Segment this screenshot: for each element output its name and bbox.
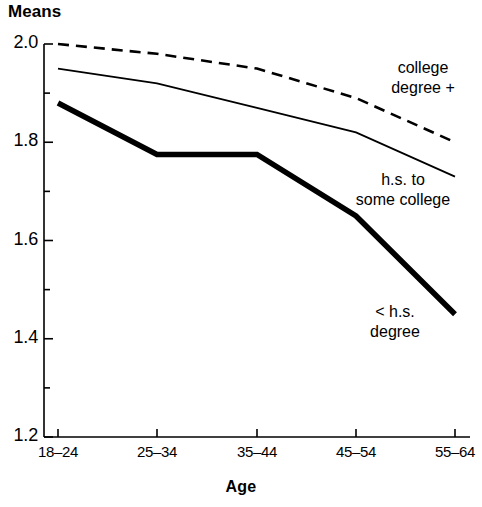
x-tick-label: 45–54 bbox=[311, 443, 401, 460]
chart-figure: Means 2.01.81.61.41.2 18–2425–3435–4445–… bbox=[0, 0, 482, 507]
y-tick-label: 2.0 bbox=[0, 32, 38, 53]
x-tick-label: 35–44 bbox=[212, 443, 302, 460]
x-tick-label: 25–34 bbox=[112, 443, 202, 460]
axes bbox=[44, 44, 470, 437]
series-label-college-degree: college degree + bbox=[368, 58, 478, 98]
y-tick-label: 1.6 bbox=[0, 229, 38, 250]
y-tick-label: 1.8 bbox=[0, 130, 38, 151]
series-label-less-than-hs-degree: < h.s. degree bbox=[340, 302, 450, 342]
x-axis-title: Age bbox=[0, 478, 482, 496]
y-tick-label: 1.4 bbox=[0, 327, 38, 348]
series-label-hs-some-college-line1: h.s. to bbox=[338, 170, 468, 190]
x-tick-label: 18–24 bbox=[13, 443, 103, 460]
series-label-college-degree-line1: college bbox=[368, 58, 478, 78]
series-label-hs-some-college-line2: some college bbox=[338, 190, 468, 210]
series-label-hs-some-college: h.s. to some college bbox=[338, 170, 468, 210]
series-label-college-degree-line2: degree + bbox=[368, 78, 478, 98]
x-tick-label: 55–64 bbox=[410, 443, 482, 460]
series-label-less-than-hs-degree-line2: degree bbox=[340, 322, 450, 342]
series-label-less-than-hs-degree-line1: < h.s. bbox=[340, 302, 450, 322]
